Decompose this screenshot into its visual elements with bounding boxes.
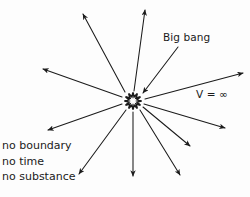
big-bang-starburst <box>124 92 141 109</box>
arrow-left-down <box>48 104 122 130</box>
velocity-infinity-label: V = ∞ <box>196 88 228 100</box>
starburst-shape <box>124 92 141 109</box>
big-bang-label: Big bang <box>163 31 210 43</box>
diagram-canvas: Big bang V = ∞ no boundary no time no su… <box>0 0 250 197</box>
arrow-down-left <box>79 110 126 174</box>
arrow-up <box>134 10 145 91</box>
arrow-right-up <box>145 73 243 99</box>
arrow-right-down-low <box>144 104 225 128</box>
arrow-up-left-shallow <box>43 69 122 97</box>
notes-block: no boundary no time no substance <box>2 138 75 185</box>
big-bang-leader-arrow <box>143 47 178 93</box>
note-line-no-time: no time <box>2 154 75 170</box>
note-line-no-boundary: no boundary <box>2 138 75 154</box>
arrow-up-left-steep <box>83 14 125 92</box>
note-line-no-substance: no substance <box>2 169 75 185</box>
leader-group <box>143 47 178 93</box>
arrow-down-right <box>140 110 180 175</box>
